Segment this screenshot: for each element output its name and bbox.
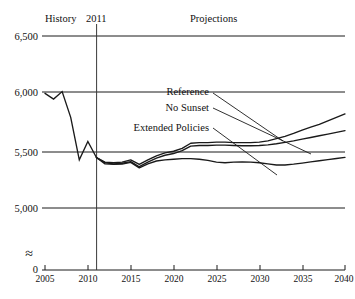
ytick-label-5000: 5,000 (14, 203, 38, 214)
xtick-label-2025: 2025 (208, 274, 227, 284)
series-label-reference: Reference (166, 86, 209, 97)
xtick-label-2010: 2010 (79, 274, 98, 284)
x-axis-ticks (45, 265, 345, 270)
axis-break-icon: ≈ (25, 246, 33, 261)
leader-line-no-sunset (213, 108, 311, 154)
xtick-label-2030: 2030 (251, 274, 270, 284)
series-label-extended-policies: Extended Policies (133, 122, 209, 133)
xtick-label-2015: 2015 (122, 274, 141, 284)
line-chart-svg: 6,500 6,000 5,500 5,000 0 ≈ 2005 2010 20… (0, 0, 355, 299)
ytick-label-5500: 5,500 (14, 147, 38, 158)
history-label: History (45, 13, 77, 24)
chart-container: 6,500 6,000 5,500 5,000 0 ≈ 2005 2010 20… (0, 0, 355, 299)
divider-year-label: 2011 (86, 13, 107, 24)
x-axis-tick-labels: 2005 2010 2015 2020 2025 2030 2035 2040 (36, 274, 354, 284)
series-annotations: Reference No Sunset Extended Policies (133, 86, 311, 175)
series-path-history (45, 92, 96, 160)
series-label-no-sunset: No Sunset (166, 102, 210, 113)
xtick-label-2005: 2005 (36, 274, 55, 284)
ytick-label-6000: 6,000 (14, 87, 38, 98)
y-axis-tick-labels: 6,500 6,000 5,500 5,000 0 (14, 31, 38, 275)
leader-line-reference (213, 93, 283, 141)
xtick-label-2040: 2040 (335, 274, 354, 284)
xtick-label-2020: 2020 (165, 274, 184, 284)
ytick-label-6500: 6,500 (14, 31, 38, 42)
projections-label: Projections (190, 13, 237, 24)
xtick-label-2035: 2035 (294, 274, 313, 284)
